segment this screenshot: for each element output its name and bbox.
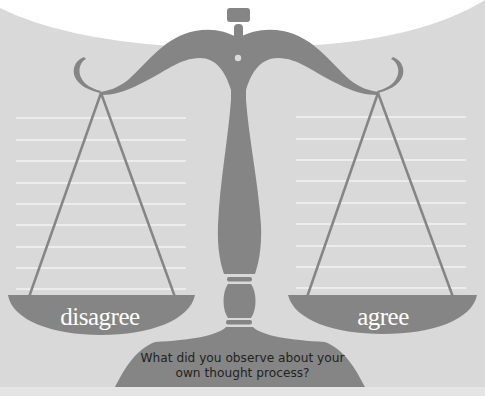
scale-ring-upper <box>227 277 252 282</box>
left-pan-label: disagree <box>40 304 160 329</box>
right-pan-label: agree <box>323 304 443 329</box>
balance-scale-illustration <box>0 0 485 396</box>
scale-ring-lower <box>226 320 252 325</box>
scale-bulb <box>224 284 256 318</box>
scale-top-knob <box>227 8 250 22</box>
bottom-strip <box>0 387 485 396</box>
pivot-hole <box>235 55 241 61</box>
base-prompt-text: What did you observe about your own thou… <box>140 351 345 381</box>
